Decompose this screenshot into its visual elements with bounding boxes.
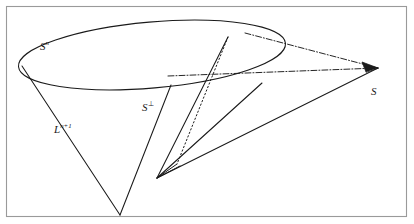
label-sphere-sn: Sn bbox=[40, 40, 49, 52]
label-point-s-base: S bbox=[371, 85, 377, 97]
label-sphere-sup: n bbox=[46, 39, 49, 46]
label-sperp-sup: ⊥ bbox=[148, 100, 154, 108]
label-lightcone-sup: n+1 bbox=[60, 122, 71, 129]
page-background bbox=[0, 0, 414, 224]
figure-canvas: Sn S⊥ Ln+1 S bbox=[0, 0, 414, 224]
label-sperp: S⊥ bbox=[142, 101, 154, 113]
label-lightcone: Ln+1 bbox=[54, 123, 72, 135]
cone-diagram-svg bbox=[0, 0, 414, 224]
label-point-s: S bbox=[371, 86, 377, 97]
